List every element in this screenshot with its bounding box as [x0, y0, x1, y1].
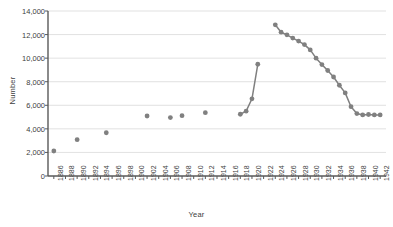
- series-line: [240, 64, 257, 114]
- data-point-marker: [320, 62, 325, 67]
- chart-container: Number Year 02,0004,0006,0008,00010,0001…: [0, 0, 393, 227]
- data-point-marker: [378, 113, 383, 118]
- data-point-marker: [238, 112, 243, 117]
- data-point-marker: [314, 56, 319, 61]
- data-point-marker: [273, 22, 278, 27]
- data-point-marker: [203, 110, 208, 115]
- data-point-marker: [285, 32, 290, 37]
- data-point-marker: [180, 113, 185, 118]
- data-point-marker: [168, 115, 173, 120]
- data-point-marker: [296, 39, 301, 44]
- data-point-marker: [145, 114, 150, 119]
- data-point-marker: [343, 91, 348, 96]
- data-point-marker: [354, 111, 359, 116]
- data-point-marker: [51, 149, 56, 154]
- data-point-marker: [372, 113, 377, 118]
- data-point-marker: [104, 130, 109, 135]
- data-point-marker: [302, 42, 307, 47]
- data-point-marker: [366, 112, 371, 117]
- data-point-marker: [244, 109, 249, 114]
- data-point-marker: [279, 30, 284, 35]
- data-point-marker: [75, 137, 80, 142]
- data-point-marker: [250, 96, 255, 101]
- data-point-marker: [337, 83, 342, 88]
- data-point-marker: [360, 113, 365, 118]
- data-point-marker: [255, 62, 260, 67]
- data-point-marker: [331, 75, 336, 80]
- data-point-marker: [349, 104, 354, 109]
- data-point-marker: [308, 47, 313, 52]
- data-point-marker: [290, 36, 295, 41]
- data-point-marker: [325, 68, 330, 73]
- plot-area: [0, 0, 393, 227]
